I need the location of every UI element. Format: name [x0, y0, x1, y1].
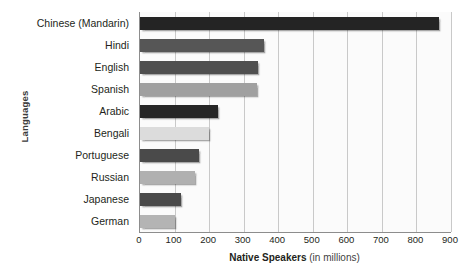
- x-axis-tick-label: 300: [235, 234, 251, 245]
- category-label: Spanish: [28, 78, 134, 100]
- bar-row: [140, 100, 451, 122]
- x-axis-tick-label: 200: [200, 234, 216, 245]
- category-label: Japanese: [28, 188, 134, 210]
- x-axis-tick-label: 800: [408, 234, 424, 245]
- bar-row: [140, 144, 451, 166]
- category-label: Portuguese: [28, 144, 134, 166]
- bar-chart: Languages Chinese (Mandarin)HindiEnglish…: [0, 0, 474, 272]
- x-axis-tick-label: 700: [373, 234, 389, 245]
- x-axis-title-main: Native Speakers: [229, 252, 306, 263]
- category-label: Arabic: [28, 100, 134, 122]
- category-label: Hindi: [28, 34, 134, 56]
- x-axis-tick-labels: 0100200300400500600700800900: [139, 234, 450, 248]
- x-axis-tick-label: 100: [166, 234, 182, 245]
- plot-area: [139, 12, 451, 233]
- bar: [140, 193, 181, 206]
- bar: [140, 105, 218, 118]
- bar-row: [140, 122, 451, 144]
- gridline: [451, 12, 452, 232]
- bar-series: [140, 12, 451, 232]
- bar-row: [140, 12, 451, 34]
- bar-row: [140, 56, 451, 78]
- bar: [140, 215, 175, 228]
- bar: [140, 61, 258, 74]
- bar-row: [140, 210, 451, 232]
- bar-row: [140, 34, 451, 56]
- bar-row: [140, 166, 451, 188]
- x-axis-title-units: (in millions): [306, 252, 359, 263]
- x-axis-tick-label: 0: [136, 234, 141, 245]
- category-label: Russian: [28, 166, 134, 188]
- category-label-list: Chinese (Mandarin)HindiEnglishSpanishAra…: [28, 12, 134, 232]
- category-label: Chinese (Mandarin): [28, 12, 134, 34]
- bar: [140, 17, 439, 30]
- bar-row: [140, 78, 451, 100]
- x-axis-tick-label: 400: [269, 234, 285, 245]
- bar-row: [140, 188, 451, 210]
- category-label: Bengali: [28, 122, 134, 144]
- x-axis-tick-label: 900: [442, 234, 458, 245]
- x-axis-title: Native Speakers (in millions): [139, 252, 450, 263]
- x-axis-tick-label: 500: [304, 234, 320, 245]
- bar: [140, 127, 209, 140]
- bar: [140, 39, 264, 52]
- bar: [140, 83, 257, 96]
- category-label: German: [28, 210, 134, 232]
- x-axis-tick-label: 600: [338, 234, 354, 245]
- bar: [140, 149, 199, 162]
- category-label: English: [28, 56, 134, 78]
- bar: [140, 171, 195, 184]
